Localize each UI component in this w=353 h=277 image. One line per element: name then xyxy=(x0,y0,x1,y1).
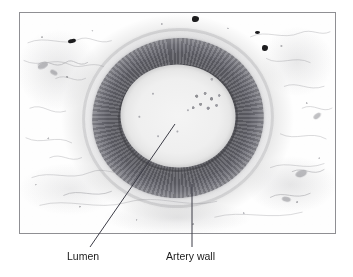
lumen-debris-cluster xyxy=(188,88,224,118)
callout-label-artery-wall: Artery wall xyxy=(166,250,215,262)
micrograph-image-frame xyxy=(19,12,336,234)
artery-micrograph-figure: Lumen Artery wall xyxy=(0,0,353,277)
lumen-speck xyxy=(151,93,153,95)
lumen-speck xyxy=(176,131,178,133)
lumen-speck xyxy=(138,116,140,118)
lumen-debris-cluster-secondary xyxy=(205,73,232,89)
callout-label-lumen: Lumen xyxy=(67,250,99,262)
lumen-speck xyxy=(156,135,158,137)
